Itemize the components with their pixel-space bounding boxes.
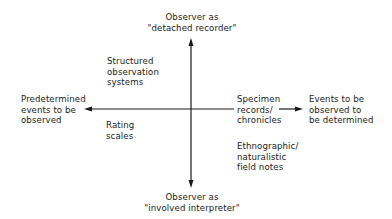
bottom-axis-label: Observer as "involved interpreter" xyxy=(138,192,246,213)
structured-observation-systems-label: Structured observation systems xyxy=(107,56,159,88)
rating-scales-label: Rating scales xyxy=(106,120,134,141)
left-axis-label: Predetermined events to be observed xyxy=(21,94,86,126)
arrow-up-icon xyxy=(189,38,194,46)
arrow-right-icon xyxy=(295,107,303,112)
top-axis-label: Observer as "detached recorder" xyxy=(140,12,244,33)
arrow-down-icon xyxy=(189,180,194,188)
ethnographic-field-notes-label: Ethnographic/ naturalistic field notes xyxy=(237,141,298,173)
right-axis-label: Events to be observed to be determined xyxy=(309,94,374,126)
specimen-records-label: Specimen records/ chronicles xyxy=(237,94,282,126)
